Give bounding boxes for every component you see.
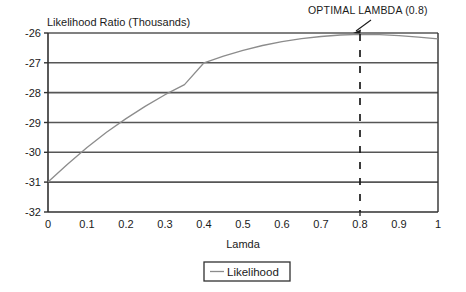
x-tick-label: 1 xyxy=(435,218,441,230)
optimal-lambda-arrow-icon xyxy=(353,20,371,34)
y-tick-label: -27 xyxy=(25,57,41,69)
y-tick-labels: -26 -27 -28 -29 -30 -31 -32 xyxy=(25,27,41,218)
y-tick-label: -28 xyxy=(25,87,41,99)
legend-item-label: Likelihood xyxy=(227,266,279,278)
x-tick-label: 0.1 xyxy=(79,218,94,230)
x-axis-title: Lamda xyxy=(226,238,261,250)
x-tick-labels: 0 0.1 0.2 0.3 0.4 0.5 0.6 0.7 0.8 0.9 1 xyxy=(45,218,441,230)
y-tick-label: -29 xyxy=(25,117,41,129)
x-tick-label: 0.6 xyxy=(274,218,289,230)
chart-figure: -26 -27 -28 -29 -30 -31 -32 0 0.1 0.2 0.… xyxy=(0,0,466,292)
y-tick-label: -32 xyxy=(25,206,41,218)
x-tick-label: 0.8 xyxy=(352,218,367,230)
x-tick-label: 0.9 xyxy=(391,218,406,230)
likelihood-ratio-chart: -26 -27 -28 -29 -30 -31 -32 0 0.1 0.2 0.… xyxy=(0,0,466,292)
y-tick-label: -30 xyxy=(25,146,41,158)
x-tick-label: 0 xyxy=(45,218,51,230)
x-tick-label: 0.3 xyxy=(157,218,172,230)
chart-legend: Likelihood xyxy=(204,262,290,281)
x-tick-label: 0.4 xyxy=(196,218,211,230)
optimal-lambda-annotation: OPTIMAL LAMBDA (0.8) xyxy=(308,4,428,16)
y-tick-label: -26 xyxy=(25,27,41,39)
y-tick-label: -31 xyxy=(25,176,41,188)
y-axis-title: Likelihood Ratio (Thousands) xyxy=(47,16,190,28)
x-tick-label: 0.2 xyxy=(118,218,133,230)
x-tick-label: 0.7 xyxy=(313,218,328,230)
x-tick-label: 0.5 xyxy=(235,218,250,230)
